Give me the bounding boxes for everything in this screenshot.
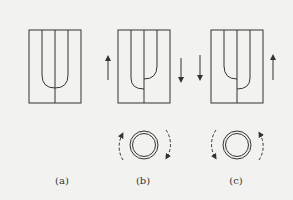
panel-a-label: (a) (42, 175, 82, 186)
diagram-canvas (0, 0, 293, 200)
panel-b-rotation (119, 130, 170, 160)
panel-c-channel (211, 30, 263, 103)
panel-c-rotation (212, 130, 264, 160)
panel-b-label: (b) (123, 175, 163, 186)
panel-b-channel (118, 30, 170, 103)
panel-a-channel (29, 30, 81, 103)
panel-c-label: (c) (216, 175, 256, 186)
